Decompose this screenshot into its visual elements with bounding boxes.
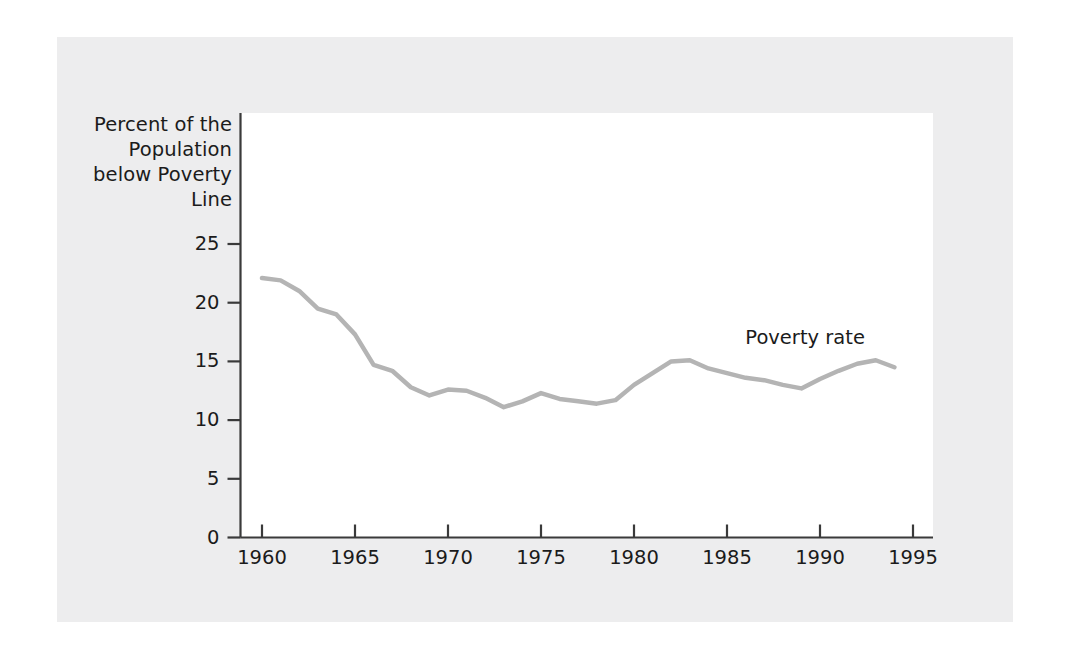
y-tick-label-15: 15: [164, 351, 220, 371]
y-tick-label-10: 10: [164, 410, 220, 430]
x-tick-label-1970: 1970: [403, 548, 493, 568]
x-tick-label-1965: 1965: [310, 548, 400, 568]
x-tick-label-1975: 1975: [496, 548, 586, 568]
tick-marks: [228, 244, 914, 538]
y-tick-label-20: 20: [164, 293, 220, 313]
x-tick-label-1960: 1960: [217, 548, 307, 568]
x-tick-label-1990: 1990: [775, 548, 865, 568]
y-tick-label-0: 0: [164, 528, 220, 548]
x-tick-label-1985: 1985: [682, 548, 772, 568]
x-tick-label-1995: 1995: [868, 548, 958, 568]
series-annotation-poverty-rate: Poverty rate: [745, 328, 865, 348]
y-tick-label-5: 5: [164, 469, 220, 489]
y-tick-label-25: 25: [164, 234, 220, 254]
figure-root: Percent of the Population below Poverty …: [0, 0, 1069, 659]
x-tick-label-1980: 1980: [589, 548, 679, 568]
